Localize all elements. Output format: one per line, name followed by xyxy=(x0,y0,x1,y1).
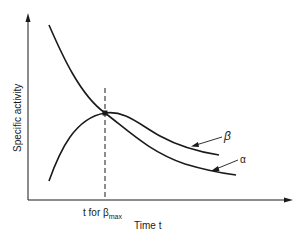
tmax-subscript: max xyxy=(109,213,123,220)
alpha-arrowhead-icon xyxy=(211,166,220,171)
x-axis-arrow-icon xyxy=(284,198,293,203)
tmax-label: t for βmax xyxy=(83,207,122,220)
beta-curve xyxy=(49,113,219,181)
beta-max-point xyxy=(103,111,108,116)
activity-diagram: β α t for βmax Time t Specific activity xyxy=(0,0,305,235)
x-axis-label: Time t xyxy=(134,220,162,231)
beta-label: β xyxy=(223,129,231,143)
beta-arrowhead-icon xyxy=(191,142,199,147)
y-axis-label: Specific activity xyxy=(12,84,23,152)
y-axis-arrow-icon xyxy=(26,13,31,22)
alpha-leader-line xyxy=(216,160,238,169)
tmax-prefix: t for β xyxy=(83,207,109,218)
alpha-label: α xyxy=(240,154,246,165)
beta-leader-line xyxy=(196,137,222,145)
